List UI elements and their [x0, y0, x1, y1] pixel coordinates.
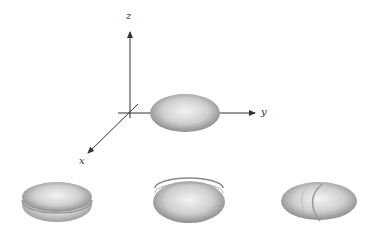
z-axis-label: z — [126, 10, 131, 21]
axes — [88, 32, 255, 153]
ellipsoid-cut-xy — [22, 182, 92, 222]
x-axis — [88, 104, 138, 153]
x-axis-label: x — [79, 155, 85, 166]
ellipsoid-cut-xz — [153, 178, 225, 223]
ellipsoid-main — [150, 94, 220, 132]
y-axis-label: y — [261, 106, 267, 117]
diagram-canvas — [0, 0, 384, 234]
figure: z y x — [0, 0, 384, 234]
ellipsoid-cut-yz — [281, 182, 357, 221]
